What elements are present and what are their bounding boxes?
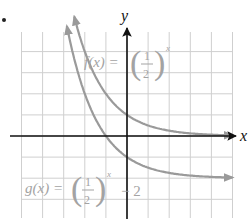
coordinate-plane: xy f(x) =(12)xg(x) =(12)x− 2 xyxy=(0,0,250,219)
paren-left: ( xyxy=(71,170,82,208)
paren-right: ) xyxy=(95,170,106,208)
fraction-numerator: 1 xyxy=(144,49,150,63)
function-curves xyxy=(67,17,233,178)
fraction-denominator: 2 xyxy=(84,193,90,207)
paren-right: ) xyxy=(154,44,165,82)
item-bullet xyxy=(2,18,6,22)
fraction-denominator: 2 xyxy=(143,67,149,81)
paren-left: ( xyxy=(130,44,141,82)
equation-lhs: f(x) = xyxy=(84,54,119,71)
graph-figure: xy f(x) =(12)xg(x) =(12)x− 2 xyxy=(0,0,250,219)
y-axis-label: y xyxy=(119,7,129,25)
exponent: x xyxy=(165,43,170,53)
exponent: x xyxy=(106,169,111,179)
equation-lhs: g(x) = xyxy=(25,180,63,197)
fraction-numerator: 1 xyxy=(85,175,91,189)
x-axis-label: x xyxy=(239,127,247,144)
equation-suffix: − 2 xyxy=(121,183,141,199)
